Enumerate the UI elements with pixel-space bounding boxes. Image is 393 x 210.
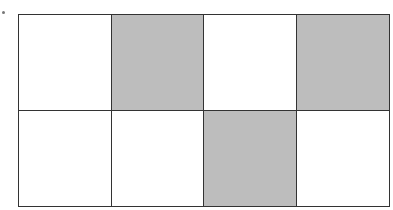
grid-cell-r1-c2-shaded <box>204 111 297 207</box>
grid-cell-r0-c3-shaded <box>297 15 390 111</box>
bullet-mark <box>2 11 5 14</box>
grid-cell-r0-c2 <box>204 15 297 111</box>
grid-cell-r0-c0 <box>19 15 112 111</box>
grid-cell-r1-c3 <box>297 111 390 207</box>
grid-cell-r0-c1-shaded <box>112 15 205 111</box>
grid-cell-r1-c1 <box>112 111 205 207</box>
shaded-grid <box>18 14 390 207</box>
grid-cell-r1-c0 <box>19 111 112 207</box>
